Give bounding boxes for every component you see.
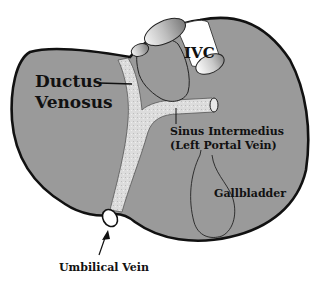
gallbladder-label: Gallbladder <box>214 187 286 200</box>
ductus-label-line2: Venosus <box>34 92 113 112</box>
umbilical-arrow-head <box>102 230 110 240</box>
ductus-label-line1: Ductus <box>35 71 102 91</box>
liver-diagram: IVC Ductus Venosus Sinus Intermedius (Le… <box>0 0 316 282</box>
sinus-label-line1: Sinus Intermedius <box>170 125 284 138</box>
umbilical-vein-label: Umbilical Vein <box>59 261 149 274</box>
sinus-label-line2: (Left Portal Vein) <box>170 139 277 152</box>
portal-vein-cap <box>210 98 218 112</box>
ivc-label: IVC <box>184 44 215 62</box>
